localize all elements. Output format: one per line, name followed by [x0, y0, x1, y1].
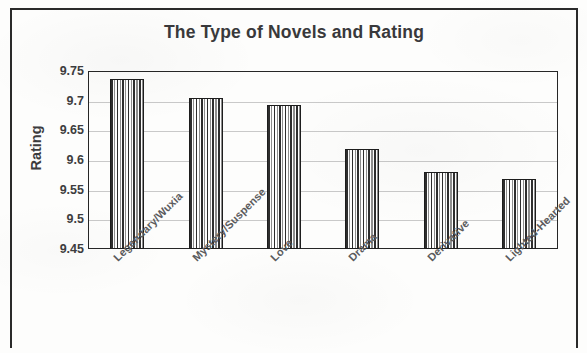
- y-axis-tick-label: 9.65: [40, 123, 84, 137]
- y-axis-tick-label: 9.7: [40, 94, 84, 108]
- y-axis-tick-label: 9.6: [40, 153, 84, 167]
- bar: [110, 79, 144, 249]
- y-axis-tick-label: 9.5: [40, 212, 84, 226]
- y-axis-tick-label: 9.55: [40, 183, 84, 197]
- chart-title: The Type of Novels and Rating: [10, 22, 578, 43]
- y-axis-tick-labels: 9.759.79.659.69.559.59.45: [38, 71, 84, 249]
- y-axis-tick-label: 9.45: [40, 242, 84, 256]
- bar: [267, 105, 301, 249]
- y-axis-tick-label: 9.75: [40, 64, 84, 78]
- x-axis-tick-labels: Legendary/WuxiaMystery/SuspenseLoveDrama…: [88, 249, 558, 349]
- chart-screenshot: The Type of Novels and Rating Rating 9.7…: [0, 0, 587, 353]
